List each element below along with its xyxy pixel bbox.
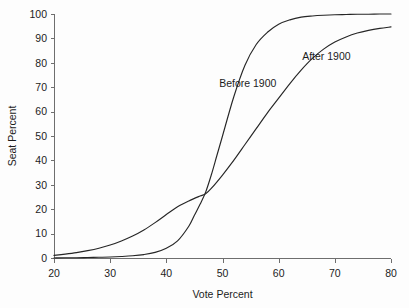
y-tick-label: 80 <box>35 57 47 69</box>
x-tick-label: 40 <box>160 267 172 279</box>
y-tick-label: 30 <box>35 179 47 191</box>
curve-annotations: Before 1900After 1900 <box>219 50 351 89</box>
y-tick-label: 0 <box>41 252 47 264</box>
x-tick-label: 80 <box>385 267 397 279</box>
x-tick-label: 60 <box>273 267 285 279</box>
y-axis-title: Seat Percent <box>6 106 18 167</box>
x-tick-label: 20 <box>48 267 60 279</box>
y-tick-label: 20 <box>35 203 47 215</box>
y-tick-label: 10 <box>35 227 47 239</box>
y-tick-label: 50 <box>35 130 47 142</box>
y-tick-label: 100 <box>29 8 47 20</box>
x-axis-ticks: 20304050607080 <box>48 259 397 280</box>
x-tick-label: 70 <box>329 267 341 279</box>
curve-label-after-1900: After 1900 <box>302 50 351 62</box>
curve-label-before-1900: Before 1900 <box>219 77 276 89</box>
y-axis-ticks: 0102030405060708090100 <box>29 8 54 264</box>
seat-vote-curve-plot: 0102030405060708090100 20304050607080 Vo… <box>0 0 409 308</box>
x-tick-label: 50 <box>217 267 229 279</box>
y-tick-label: 60 <box>35 105 47 117</box>
y-tick-label: 70 <box>35 81 47 93</box>
x-axis-title: Vote Percent <box>192 288 252 300</box>
x-tick-label: 30 <box>104 267 116 279</box>
chart-figure: 0102030405060708090100 20304050607080 Vo… <box>0 0 409 308</box>
y-tick-label: 90 <box>35 32 47 44</box>
y-tick-label: 40 <box>35 154 47 166</box>
